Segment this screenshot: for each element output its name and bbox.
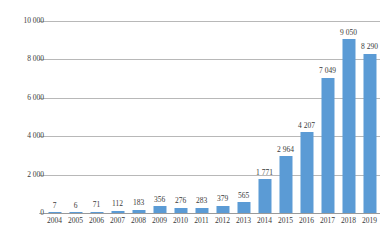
bar-slot[interactable]: 565 bbox=[233, 21, 254, 213]
bar-slot[interactable]: 71 bbox=[86, 21, 107, 213]
bar[interactable] bbox=[132, 210, 145, 214]
bar-series: 76711121833562762833795651 7712 9644 207… bbox=[44, 21, 380, 213]
bar-value-label: 8 290 bbox=[361, 43, 378, 51]
bar[interactable] bbox=[363, 54, 376, 213]
x-axis-tick-label: 2008 bbox=[128, 217, 149, 225]
bar-slot[interactable]: 1 771 bbox=[254, 21, 275, 213]
bar[interactable] bbox=[258, 179, 271, 213]
x-axis-tick-label: 2004 bbox=[44, 217, 65, 225]
x-axis-tick-label: 2017 bbox=[317, 217, 338, 225]
bar-slot[interactable]: 356 bbox=[149, 21, 170, 213]
x-axis-tick-label: 2006 bbox=[86, 217, 107, 225]
bar-slot[interactable]: 283 bbox=[191, 21, 212, 213]
bar[interactable] bbox=[174, 208, 187, 213]
bar-slot[interactable]: 379 bbox=[212, 21, 233, 213]
x-axis-tick-label: 2014 bbox=[254, 217, 275, 225]
bar-value-label: 183 bbox=[133, 199, 144, 207]
bar-value-label: 565 bbox=[238, 192, 249, 200]
bar-slot[interactable]: 112 bbox=[107, 21, 128, 213]
bar-value-label: 2 964 bbox=[277, 146, 294, 154]
plot-area: 76711121833562762833795651 7712 9644 207… bbox=[44, 21, 380, 213]
bar-value-label: 7 049 bbox=[319, 67, 336, 75]
bar[interactable] bbox=[111, 211, 124, 213]
bar-slot[interactable]: 183 bbox=[128, 21, 149, 213]
bar[interactable] bbox=[279, 156, 292, 213]
x-axis-tick-label: 2010 bbox=[170, 217, 191, 225]
bar-value-label: 6 bbox=[74, 202, 78, 210]
x-axis-tick-label: 2007 bbox=[107, 217, 128, 225]
bar-slot[interactable]: 4 207 bbox=[296, 21, 317, 213]
bar[interactable] bbox=[195, 208, 208, 213]
x-axis-tick-label: 2016 bbox=[296, 217, 317, 225]
bar-value-label: 1 771 bbox=[256, 169, 273, 177]
x-axis-tick-label: 2011 bbox=[191, 217, 212, 225]
x-axis-tick-label: 2015 bbox=[275, 217, 296, 225]
y-axis-tick-label: 4 000 bbox=[4, 132, 44, 140]
bar[interactable] bbox=[216, 206, 229, 213]
x-axis-tick-label: 2012 bbox=[212, 217, 233, 225]
bar-chart: 76711121833562762833795651 7712 9644 207… bbox=[0, 0, 384, 245]
bar-value-label: 7 bbox=[53, 202, 57, 210]
bar-slot[interactable]: 9 050 bbox=[338, 21, 359, 213]
bar[interactable] bbox=[69, 212, 82, 213]
bar-value-label: 4 207 bbox=[298, 122, 315, 130]
bar[interactable] bbox=[90, 212, 103, 213]
bar[interactable] bbox=[48, 212, 61, 213]
bar[interactable] bbox=[153, 206, 166, 213]
bar[interactable] bbox=[321, 78, 334, 213]
bar-value-label: 112 bbox=[112, 200, 123, 208]
y-axis-tick-label: 0 bbox=[4, 209, 44, 217]
bar-slot[interactable]: 6 bbox=[65, 21, 86, 213]
gridline-0 bbox=[44, 213, 380, 214]
x-axis-tick-label: 2013 bbox=[233, 217, 254, 225]
bar[interactable] bbox=[237, 202, 250, 213]
x-axis-tick-label: 2009 bbox=[149, 217, 170, 225]
bar-slot[interactable]: 2 964 bbox=[275, 21, 296, 213]
y-axis-tick-label: 2 000 bbox=[4, 171, 44, 179]
y-axis-tick-label: 10 000 bbox=[4, 17, 44, 25]
x-axis-tick-label: 2019 bbox=[359, 217, 380, 225]
bar-value-label: 276 bbox=[175, 197, 186, 205]
x-axis-tick-label: 2005 bbox=[65, 217, 86, 225]
bar-slot[interactable]: 8 290 bbox=[359, 21, 380, 213]
bar[interactable] bbox=[300, 132, 313, 213]
bar-value-label: 71 bbox=[93, 201, 101, 209]
x-axis-tick-label: 2018 bbox=[338, 217, 359, 225]
y-axis-tick-label: 8 000 bbox=[4, 55, 44, 63]
x-axis-labels: 2004200520062007200820092010201120122013… bbox=[44, 217, 380, 233]
bar-value-label: 379 bbox=[217, 195, 228, 203]
bar-slot[interactable]: 7 049 bbox=[317, 21, 338, 213]
bar[interactable] bbox=[342, 39, 355, 213]
bar-slot[interactable]: 7 bbox=[44, 21, 65, 213]
bar-value-label: 9 050 bbox=[340, 29, 357, 37]
bar-value-label: 356 bbox=[154, 196, 165, 204]
bar-slot[interactable]: 276 bbox=[170, 21, 191, 213]
bar-value-label: 283 bbox=[196, 197, 207, 205]
y-axis-tick-label: 6 000 bbox=[4, 94, 44, 102]
